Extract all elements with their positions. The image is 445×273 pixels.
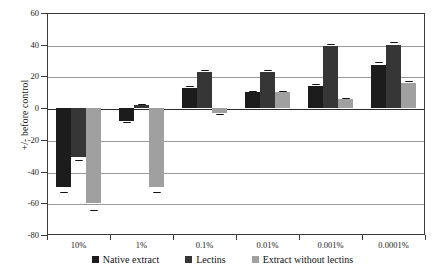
bar-rect [86, 108, 101, 203]
bar-rect [401, 83, 416, 108]
error-bar-cap [312, 84, 319, 85]
bar-rect [119, 108, 134, 121]
error-bar-cap [153, 192, 160, 193]
error-bar-cap [390, 42, 397, 43]
bar [260, 13, 275, 235]
legend-label: Lectins [196, 254, 225, 265]
x-axis-label-3: 0.01% [257, 240, 279, 250]
bar [182, 13, 197, 235]
legend-swatch [92, 256, 99, 263]
x-axis-label-4: 0.001% [317, 240, 343, 250]
bar [245, 13, 260, 235]
legend-item-0: Native extract [92, 254, 159, 265]
error-bar-cap [375, 62, 382, 63]
error-bar-cap [216, 114, 223, 115]
bar-rect [197, 72, 212, 108]
x-axis-label-5: 0.0001% [378, 240, 408, 250]
chart-legend: Native extractLectinsExtract without lec… [0, 254, 445, 265]
bar-rect [149, 108, 164, 187]
error-bar-cap [249, 91, 256, 92]
y-tick-label: -40 [5, 167, 39, 177]
x-tick-mark [236, 235, 237, 240]
bar-group [47, 13, 110, 235]
bar [323, 13, 338, 235]
bar-rect [371, 65, 386, 108]
bar-rect [260, 72, 275, 108]
bar [275, 13, 290, 235]
x-tick-mark [110, 235, 111, 240]
bar-group [236, 13, 299, 235]
bar-group [110, 13, 173, 235]
bar [56, 13, 71, 235]
bar-rect [71, 108, 86, 157]
bar-rect [245, 92, 260, 108]
bar-rect [338, 99, 353, 109]
error-bar-cap [327, 44, 334, 45]
y-tick-label: 40 [5, 40, 39, 50]
y-tick-label: -20 [5, 135, 39, 145]
legend-item-2: Extract without lectins [252, 254, 354, 265]
error-bar-cap [186, 86, 193, 87]
bar-rect [56, 108, 71, 187]
error-bar-cap [123, 122, 130, 123]
x-tick-mark [362, 235, 363, 240]
bar-group [299, 13, 362, 235]
bar [71, 13, 86, 235]
y-tick-label: 20 [5, 71, 39, 81]
error-bar-cap [405, 81, 412, 82]
bar [386, 13, 401, 235]
bar [308, 13, 323, 235]
bar-rect [134, 105, 149, 108]
error-bar-cap [60, 192, 67, 193]
legend-label: Extract without lectins [263, 254, 354, 265]
bar [86, 13, 101, 235]
error-bar-cap [264, 70, 271, 71]
error-bar-cap [90, 210, 97, 211]
error-bar-cap [138, 104, 145, 105]
y-tick-label: 0 [5, 103, 39, 113]
bar-rect [386, 45, 401, 108]
bar [149, 13, 164, 235]
bar [371, 13, 386, 235]
bar-rect [323, 46, 338, 108]
legend-swatch [252, 256, 259, 263]
bar [119, 13, 134, 235]
y-tick-label: -60 [5, 198, 39, 208]
error-bar-cap [201, 70, 208, 71]
bar [338, 13, 353, 235]
x-tick-mark [425, 235, 426, 240]
bar-rect [212, 108, 227, 113]
y-tick-label: -80 [5, 230, 39, 240]
error-bar-cap [279, 91, 286, 92]
bar [197, 13, 212, 235]
bars-layer [47, 13, 425, 235]
legend-item-1: Lectins [185, 254, 225, 265]
error-bar-cap [342, 98, 349, 99]
x-axis-label-1: 1% [136, 240, 147, 250]
bar-chart: +/- before control 6040200-20-40-60-80 1… [0, 0, 445, 273]
y-tick-label: 60 [5, 8, 39, 18]
bar-group [173, 13, 236, 235]
x-tick-mark [173, 235, 174, 240]
bar-rect [275, 92, 290, 108]
bar [134, 13, 149, 235]
bar-rect [182, 88, 197, 109]
bar [401, 13, 416, 235]
legend-swatch [185, 256, 192, 263]
legend-label: Native extract [103, 254, 159, 265]
bar-rect [308, 86, 323, 108]
bar [212, 13, 227, 235]
bar-group [362, 13, 425, 235]
error-bar-cap [75, 160, 82, 161]
x-tick-mark [299, 235, 300, 240]
x-axis-label-2: 0.1% [196, 240, 214, 250]
x-tick-mark [47, 235, 48, 240]
x-axis-label-0: 10% [71, 240, 87, 250]
